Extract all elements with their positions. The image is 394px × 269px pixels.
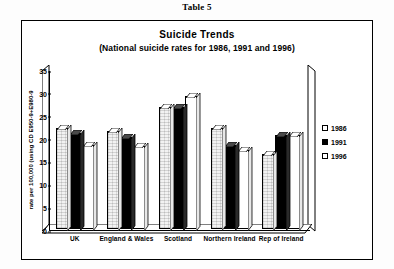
bar-side-face <box>235 142 239 226</box>
y-axis-ticks: 05101520253035 <box>30 71 47 234</box>
y-tick-label: 25 <box>39 113 47 120</box>
x-tick-label: UK <box>70 235 80 242</box>
bar-rep-of-ireland-1986 <box>262 154 274 229</box>
bar-side-face <box>131 134 135 226</box>
y-tick-label: 30 <box>39 90 47 97</box>
x-tick-label: Northern Ireland <box>204 235 256 242</box>
bar-side-face <box>273 151 277 226</box>
legend-label: 1986 <box>331 125 347 132</box>
x-tick-label: Rep of Ireland <box>259 235 304 242</box>
bar-uk-1986 <box>56 128 68 229</box>
chart-page: Table 5 Suicide Trends (National suicide… <box>0 0 394 269</box>
legend-item-1996[interactable]: 1996 <box>322 149 366 163</box>
y-tick-label: 10 <box>39 182 47 189</box>
y-tick-mark <box>48 71 51 72</box>
x-axis-labels: UKEngland & WalesScotlandNorthern Irelan… <box>44 235 316 249</box>
x-tick-label: Scotland <box>164 235 192 242</box>
bar-england-wales-1986 <box>107 131 119 229</box>
y-tick-label: 15 <box>39 159 47 166</box>
legend-swatch-icon <box>322 139 328 145</box>
bar-side-face <box>196 93 200 226</box>
legend-label: 1991 <box>331 139 347 146</box>
table-caption: Table 5 <box>0 2 394 12</box>
legend-swatch-icon <box>322 153 328 159</box>
bar-side-face <box>118 128 122 226</box>
legend-item-1986[interactable]: 1986 <box>322 121 366 135</box>
bar-top-face <box>108 128 118 132</box>
bar-side-face <box>183 104 187 226</box>
bar-northern-ireland-1986 <box>211 128 223 229</box>
bar-top-face <box>186 93 196 97</box>
chart-frame: Suicide Trends (National suicide rates f… <box>21 20 373 260</box>
chart-legend: 198619911996 <box>322 121 366 169</box>
bar-top-face <box>263 151 273 155</box>
x-tick-label: England & Wales <box>99 235 153 242</box>
y-tick-label: 5 <box>43 205 47 212</box>
legend-swatch-icon <box>322 125 328 131</box>
bar-top-face <box>57 125 67 129</box>
x-axis-line <box>49 230 310 231</box>
legend-item-1991[interactable]: 1991 <box>322 135 366 149</box>
y-tick-label: 20 <box>39 136 47 143</box>
bar-scotland-1986 <box>159 107 171 229</box>
bar-group <box>159 76 197 229</box>
bar-side-face <box>286 132 290 226</box>
chart-subtitle: (National suicide rates for 1986, 1991 a… <box>22 43 372 53</box>
bar-group <box>262 76 300 229</box>
bar-top-face <box>160 104 170 108</box>
bar-group <box>211 76 249 229</box>
y-tick-mark <box>48 231 51 232</box>
y-tick-label: 35 <box>39 68 47 75</box>
bar-top-face <box>212 125 222 129</box>
bar-side-face <box>299 132 303 226</box>
bar-side-face <box>67 125 71 226</box>
bar-group <box>56 76 94 229</box>
bar-group <box>107 76 145 229</box>
bar-side-face <box>170 104 174 226</box>
bar-side-face <box>80 130 84 226</box>
bar-side-face <box>248 147 252 226</box>
bar-top-face <box>276 132 286 136</box>
legend-label: 1996 <box>331 153 347 160</box>
plot-area <box>49 76 307 229</box>
plot-right-wall <box>307 65 316 233</box>
bar-side-face <box>222 125 226 226</box>
bar-side-face <box>144 143 148 226</box>
chart-title: Suicide Trends <box>22 29 372 40</box>
y-tick-label: 0 <box>43 228 47 235</box>
bar-side-face <box>93 142 97 226</box>
